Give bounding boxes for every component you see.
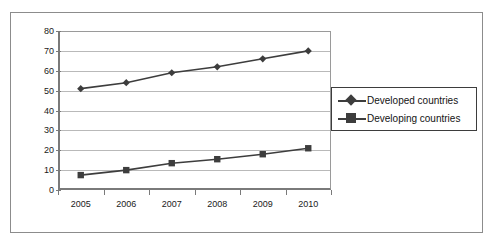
clipped-caption-strip <box>0 0 495 9</box>
y-axis-tick-label: 60 <box>32 66 54 75</box>
x-axis-tick-label: 2008 <box>194 199 240 209</box>
x-axis-tick <box>104 190 105 195</box>
x-axis: 200520062007200820092010 <box>58 194 331 216</box>
y-axis-tick-label: 0 <box>32 186 54 195</box>
legend-label-developing: Developing countries <box>367 113 460 125</box>
legend-item-developing: Developing countries <box>337 110 471 128</box>
y-axis-tick <box>56 91 61 92</box>
y-axis-tick-label: 40 <box>32 106 54 115</box>
x-axis-tick <box>331 190 332 195</box>
x-axis-tick-label: 2006 <box>103 199 149 209</box>
data-point-marker <box>214 156 220 162</box>
chart-outer-frame: 01020304050607080 2005200620072008200920… <box>10 12 483 233</box>
legend-item-developed: Developed countries <box>337 92 471 110</box>
y-axis-tick <box>56 111 61 112</box>
series-line-1 <box>81 51 309 89</box>
y-axis-tick-label: 50 <box>32 86 54 95</box>
y-axis-tick <box>56 71 61 72</box>
line-chart: 01020304050607080 2005200620072008200920… <box>11 13 484 234</box>
data-point-marker <box>123 79 130 86</box>
series-line-2 <box>81 148 309 175</box>
data-point-marker <box>77 85 84 92</box>
data-point-marker <box>305 47 312 54</box>
y-axis-tick-label: 20 <box>32 146 54 155</box>
y-axis-tick-label: 10 <box>32 166 54 175</box>
x-axis-tick <box>286 190 287 195</box>
series-layer <box>58 31 331 190</box>
diamond-marker-icon <box>337 94 367 108</box>
y-axis-tick <box>56 130 61 131</box>
data-point-marker <box>78 172 84 178</box>
data-point-marker <box>214 63 221 70</box>
y-axis-tick-label: 70 <box>32 46 54 55</box>
x-axis-tick-label: 2007 <box>149 199 195 209</box>
x-axis-tick <box>149 190 150 195</box>
data-point-marker <box>169 160 175 166</box>
x-axis-tick <box>240 190 241 195</box>
square-marker-icon <box>337 112 367 126</box>
chart-legend: Developed countries Developing countries <box>331 87 477 131</box>
data-point-marker <box>123 167 129 173</box>
y-axis-tick <box>56 31 61 32</box>
x-axis-tick-label: 2005 <box>58 199 104 209</box>
x-axis-tick-label: 2010 <box>285 199 331 209</box>
x-axis-tick <box>195 190 196 195</box>
data-point-marker <box>305 145 311 151</box>
data-point-marker <box>168 69 175 76</box>
data-point-marker <box>260 151 266 157</box>
y-axis-tick <box>56 170 61 171</box>
x-axis-tick-label: 2009 <box>240 199 286 209</box>
y-axis-tick <box>56 51 61 52</box>
y-axis-tick-label: 80 <box>32 27 54 36</box>
y-axis: 01020304050607080 <box>29 31 54 190</box>
legend-label-developed: Developed countries <box>367 95 458 107</box>
y-axis-tick-label: 30 <box>32 126 54 135</box>
x-axis-tick <box>58 190 59 195</box>
y-axis-tick <box>56 150 61 151</box>
data-point-marker <box>259 55 266 62</box>
